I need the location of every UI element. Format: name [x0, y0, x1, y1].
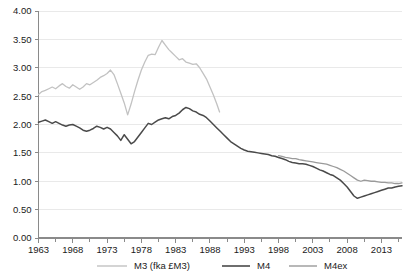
- x-tick-label: 1973: [97, 244, 118, 255]
- legend-label-m4: M4: [257, 260, 270, 271]
- x-tick-label: 1988: [199, 244, 220, 255]
- series-line-m3: [39, 41, 220, 115]
- y-axis-ticks: [35, 11, 39, 238]
- x-axis-tick-labels: 1963196819731978198319881993199820032008…: [28, 244, 392, 255]
- y-tick-label: 3.00: [13, 62, 32, 73]
- x-tick-label: 1968: [62, 244, 83, 255]
- y-axis-tick-labels: 0.000.501.001.502.002.503.003.504.00: [13, 5, 32, 243]
- x-tick-label: 2003: [302, 244, 323, 255]
- x-tick-label: 2013: [371, 244, 392, 255]
- gridlines: [39, 11, 403, 238]
- chart-legend: M3 (fka £M3)M4M4ex: [97, 260, 347, 271]
- y-tick-label: 2.50: [13, 91, 32, 102]
- legend-label-m4ex: M4ex: [324, 260, 347, 271]
- y-tick-label: 4.00: [13, 5, 32, 16]
- legend-label-m3: M3 (fka £M3): [134, 260, 190, 271]
- chart-container: 0.000.501.001.502.002.503.003.504.00 196…: [0, 0, 407, 279]
- y-tick-label: 0.00: [13, 232, 32, 243]
- y-tick-label: 1.50: [13, 147, 32, 158]
- y-tick-label: 2.00: [13, 119, 32, 130]
- y-tick-label: 0.50: [13, 204, 32, 215]
- y-tick-label: 1.00: [13, 176, 32, 187]
- x-tick-label: 1983: [165, 244, 186, 255]
- x-tick-label: 1978: [131, 244, 152, 255]
- y-tick-label: 3.50: [13, 34, 32, 45]
- x-tick-label: 1963: [28, 244, 49, 255]
- x-tick-label: 1993: [234, 244, 255, 255]
- x-tick-label: 2008: [337, 244, 358, 255]
- x-axis-ticks: [39, 238, 399, 243]
- x-tick-label: 1998: [268, 244, 289, 255]
- line-chart: 0.000.501.001.502.002.503.003.504.00 196…: [0, 0, 407, 279]
- data-series-group: [39, 41, 403, 199]
